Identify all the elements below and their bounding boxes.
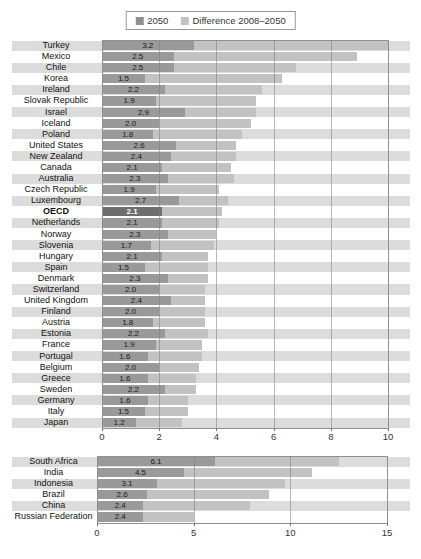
value-label-2050: 1.5 bbox=[102, 74, 145, 83]
legend-label-2050: 2050 bbox=[147, 15, 168, 26]
bar-2050: 2.5 bbox=[102, 52, 174, 61]
bar-2050: 2.7 bbox=[102, 196, 179, 205]
bar-2050: 2.1 bbox=[102, 218, 162, 227]
bar-2050: 1.6 bbox=[102, 374, 148, 383]
chart-row: Austria1.8 bbox=[0, 317, 421, 328]
chart-row: Poland1.8 bbox=[0, 129, 421, 140]
bar-2050: 1.9 bbox=[102, 96, 156, 105]
chart-row: Norway2.3 bbox=[0, 229, 421, 240]
legend-swatch-2050 bbox=[135, 17, 143, 25]
country-label: Ireland bbox=[12, 84, 100, 95]
value-label-2050: 1.2 bbox=[102, 418, 136, 427]
bar-2050: 2.9 bbox=[102, 108, 185, 117]
gridline bbox=[331, 40, 332, 428]
value-label-2050: 2.2 bbox=[102, 85, 165, 94]
chart-row: Hungary2.1 bbox=[0, 251, 421, 262]
country-label: Turkey bbox=[12, 40, 100, 51]
gridline bbox=[216, 40, 217, 428]
bar-2050: 1.2 bbox=[102, 418, 136, 427]
country-label: Finland bbox=[12, 306, 100, 317]
country-label: United States bbox=[12, 140, 100, 151]
bar-2050: 2.6 bbox=[102, 141, 176, 150]
gridline bbox=[159, 40, 160, 428]
bar-2050: 2.0 bbox=[102, 285, 159, 294]
value-label-2050: 2.1 bbox=[102, 163, 162, 172]
value-label-2050: 2.9 bbox=[102, 108, 185, 117]
bar-2050: 1.8 bbox=[102, 318, 153, 327]
bar-2050: 2.1 bbox=[102, 207, 162, 216]
bar-2050: 2.4 bbox=[97, 512, 143, 521]
country-label: Spain bbox=[12, 262, 100, 273]
axis-tick bbox=[290, 523, 291, 526]
chart-row: Turkey3.2 bbox=[0, 40, 421, 51]
country-label: Germany bbox=[12, 395, 100, 406]
legend-item-difference: Difference 2008–2050 bbox=[180, 15, 285, 26]
value-label-2050: 1.5 bbox=[102, 263, 145, 272]
bar-2050: 6.1 bbox=[97, 457, 215, 466]
bar-2050: 4.5 bbox=[97, 468, 184, 477]
axis-tick-label: 10 bbox=[383, 431, 394, 442]
value-label-2050: 1.5 bbox=[102, 407, 145, 416]
chart-row: Iceland2.0 bbox=[0, 118, 421, 129]
chart-row: Indonesia3.1 bbox=[0, 478, 421, 489]
value-label-2050: 2.2 bbox=[102, 329, 165, 338]
gridline bbox=[274, 40, 275, 428]
country-label: France bbox=[12, 339, 100, 350]
legend-item-2050: 2050 bbox=[135, 15, 168, 26]
chart-row: United Kingdom2.4 bbox=[0, 295, 421, 306]
chart-row: Finland2.0 bbox=[0, 306, 421, 317]
value-label-2050: 2.1 bbox=[102, 218, 162, 227]
chart-row: China2.4 bbox=[0, 500, 421, 511]
country-label: Luxembourg bbox=[12, 195, 100, 206]
chart-row: Brazil2.6 bbox=[0, 489, 421, 500]
country-label: Slovak Republic bbox=[12, 95, 100, 106]
country-label: Hungary bbox=[12, 251, 100, 262]
country-label: Canada bbox=[12, 162, 100, 173]
axis-tick-label: 0 bbox=[94, 527, 99, 538]
chart-row: United States2.6 bbox=[0, 140, 421, 151]
country-label: Denmark bbox=[12, 273, 100, 284]
value-label-2050: 2.4 bbox=[97, 512, 143, 521]
country-label: Netherlands bbox=[12, 217, 100, 228]
country-label: United Kingdom bbox=[12, 295, 100, 306]
bar-2050: 1.7 bbox=[102, 241, 151, 250]
value-label-2050: 1.9 bbox=[102, 340, 156, 349]
country-label: Italy bbox=[12, 406, 100, 417]
chart-row: Japan1.2 bbox=[0, 417, 421, 428]
chart-row: Estonia2.2 bbox=[0, 328, 421, 339]
chart-row: New Zealand2.4 bbox=[0, 151, 421, 162]
legend-swatch-difference bbox=[180, 17, 188, 25]
bar-2050: 3.2 bbox=[102, 41, 194, 50]
bar-2050: 2.0 bbox=[102, 363, 159, 372]
value-label-2050: 4.5 bbox=[97, 468, 184, 477]
chart-row: France1.9 bbox=[0, 339, 421, 350]
axis-tick bbox=[97, 523, 98, 526]
value-label-2050: 2.0 bbox=[102, 285, 159, 294]
country-label: Russian Federation bbox=[12, 511, 95, 522]
country-label: Greece bbox=[12, 373, 100, 384]
bar-2050: 2.2 bbox=[102, 329, 165, 338]
country-label: Belgium bbox=[12, 362, 100, 373]
bar-2050: 2.2 bbox=[102, 85, 165, 94]
chart-row: Italy1.5 bbox=[0, 406, 421, 417]
bar-2050: 2.3 bbox=[102, 174, 168, 183]
chart-row: OECD2.1 bbox=[0, 206, 421, 217]
value-label-2050: 2.7 bbox=[102, 196, 179, 205]
bar-2050: 2.4 bbox=[102, 296, 171, 305]
country-label: Poland bbox=[12, 129, 100, 140]
axis-tick bbox=[194, 523, 195, 526]
axis-tick-label: 10 bbox=[285, 527, 296, 538]
country-label: Estonia bbox=[12, 328, 100, 339]
bar-2050: 2.1 bbox=[102, 163, 162, 172]
value-label-2050: 1.8 bbox=[102, 318, 153, 327]
value-label-2050: 2.1 bbox=[102, 252, 162, 261]
bar-2050: 1.5 bbox=[102, 74, 145, 83]
chart-row: Korea1.5 bbox=[0, 73, 421, 84]
bar-2050: 2.4 bbox=[102, 152, 171, 161]
chart-row: Spain1.5 bbox=[0, 262, 421, 273]
chart-row: Belgium2.0 bbox=[0, 362, 421, 373]
axis-tick-label: 6 bbox=[271, 431, 276, 442]
chart-row: Czech Republic1.9 bbox=[0, 184, 421, 195]
axis-tick-label: 4 bbox=[214, 431, 219, 442]
chart-row: Denmark2.3 bbox=[0, 273, 421, 284]
